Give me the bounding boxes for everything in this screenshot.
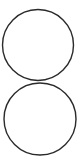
diagram-canvas (0, 0, 80, 163)
top-circle (3, 10, 74, 81)
stacked-circles-diagram (0, 0, 80, 163)
bottom-circle (4, 83, 76, 155)
